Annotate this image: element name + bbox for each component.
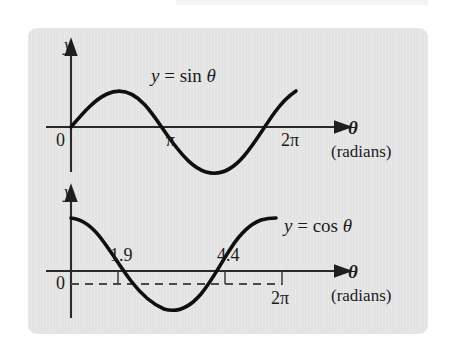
sine-origin-label: 0: [56, 131, 65, 149]
cosine-function-label: y = cos θ: [284, 216, 352, 235]
cosine-y-axis-label: y: [64, 183, 72, 201]
sine-tick-label-2pi: 2π: [281, 131, 299, 149]
cosine-curve: [71, 218, 276, 310]
sine-x-axis-units: (radians): [331, 143, 391, 160]
sine-label-arg: θ: [207, 65, 216, 86]
cosine-tick-label-1-9: 1.9: [110, 246, 133, 264]
cosine-tick-label-4-4: 4.4: [217, 246, 240, 264]
sine-curve: [71, 91, 296, 173]
cosine-x-axis-units: (radians): [331, 287, 391, 304]
sine-function-label: y = sin θ: [151, 66, 216, 85]
cosine-tick-label-2pi: 2π: [271, 289, 289, 307]
cosine-label-fn: cos: [313, 215, 338, 236]
sine-x-axis-label: θ: [348, 118, 358, 137]
cosine-origin-label: 0: [56, 274, 65, 292]
cosine-x-axis-label: θ: [348, 262, 358, 281]
sine-label-equals: =: [164, 65, 175, 86]
sine-label-fn: sin: [180, 65, 202, 86]
math-figure: y 0 π 2π y = sin θ θ (radians) y 0 1.9 4…: [0, 0, 454, 352]
cosine-label-equals: =: [297, 215, 308, 236]
sine-tick-label-pi: π: [166, 131, 175, 149]
cosine-label-arg: θ: [343, 215, 352, 236]
sine-y-axis-label: y: [64, 36, 72, 54]
